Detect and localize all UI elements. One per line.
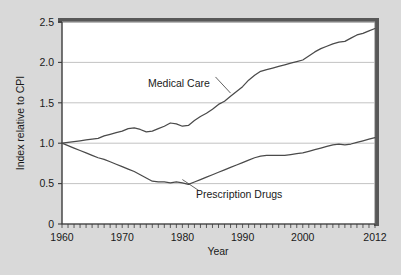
- x-tick-label: 1980: [171, 231, 195, 243]
- series-label-medical-care: Medical Care: [148, 77, 210, 89]
- x-tick-label: 2012: [363, 231, 387, 243]
- y-tick-label: 0.5: [39, 177, 54, 189]
- x-tick-label: 1960: [50, 231, 74, 243]
- x-tick-label: 1990: [231, 231, 255, 243]
- index-relative-to-cpi-line-chart: 2.5 2.0 1.5 1.0 0.5 0 Index relative to …: [0, 0, 401, 275]
- x-tick-label: 1970: [111, 231, 135, 243]
- y-axis-tick-labels: 2.5 2.0 1.5 1.0 0.5 0: [39, 16, 54, 230]
- y-axis-title: Index relative to CPI: [14, 76, 26, 171]
- series-label-prescription-drugs: Prescription Drugs: [196, 188, 282, 200]
- y-tick-label: 1.0: [39, 137, 54, 149]
- y-axis-ticks: [58, 22, 62, 224]
- x-axis-title: Year: [207, 245, 229, 257]
- y-tick-label: 1.5: [39, 97, 54, 109]
- x-tick-label: 2000: [291, 231, 315, 243]
- x-axis-tick-labels: 196019701980199020002012: [50, 231, 387, 243]
- y-tick-label: 2.0: [39, 56, 54, 68]
- y-tick-label: 2.5: [39, 16, 54, 28]
- x-axis-minor-ticks: [62, 224, 375, 228]
- y-tick-label: 0: [48, 218, 54, 230]
- chart-figure: 2.5 2.0 1.5 1.0 0.5 0 Index relative to …: [0, 0, 401, 275]
